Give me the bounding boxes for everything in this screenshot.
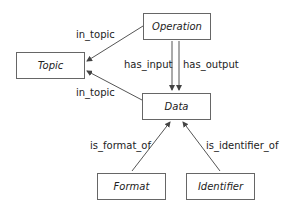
node-format: Format — [97, 173, 166, 200]
label-is-format-of: is_format_of — [90, 140, 151, 151]
node-operation: Operation — [143, 13, 211, 40]
node-identifier: Identifier — [186, 173, 255, 200]
node-data: Data — [142, 93, 211, 120]
label-op-in-topic: in_topic — [76, 29, 115, 40]
label-has-output: has_output — [183, 59, 239, 70]
label-has-input: has_input — [124, 59, 172, 70]
node-topic: Topic — [16, 52, 85, 79]
label-data-in-topic: in_topic — [76, 87, 115, 98]
label-is-identifier-of: is_identifier_of — [206, 140, 279, 151]
